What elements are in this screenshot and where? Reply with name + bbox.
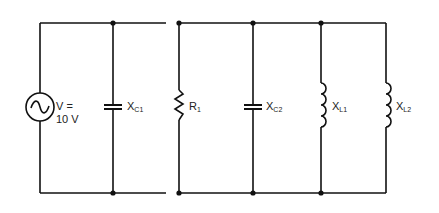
source-label: V = — [56, 101, 73, 112]
capacitor-c1-icon — [104, 105, 122, 109]
ac-source-icon — [26, 93, 54, 121]
label-xc2: XC2 — [266, 101, 282, 113]
capacitor-c2-icon — [244, 105, 262, 109]
label-xc1: XC1 — [127, 101, 143, 113]
resistor-r1-icon — [175, 90, 183, 120]
label-xl2: XL2 — [396, 101, 411, 113]
label-xl1: XL1 — [332, 101, 347, 113]
inductor-l2-icon — [386, 83, 391, 127]
source-value: 10 V — [56, 114, 79, 125]
label-r1: R1 — [189, 101, 201, 113]
inductor-l1-icon — [321, 83, 326, 127]
